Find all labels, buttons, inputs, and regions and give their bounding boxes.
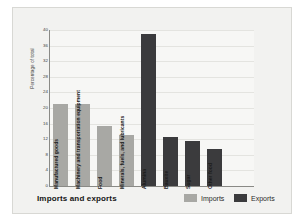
bar-label-machinery-and-transportation-equipment: Machinery and transportation equipment bbox=[76, 90, 81, 189]
y-tick-label: 28 bbox=[30, 75, 48, 79]
legend-item-imports[interactable]: Imports bbox=[184, 194, 224, 202]
y-tick-label: 4 bbox=[30, 168, 48, 172]
chart-footer: Imports and exports Imports Exports bbox=[13, 188, 291, 214]
bar-label-minerals-fuels-and-lubricants: Minerals, fuels, and lubricants bbox=[120, 116, 125, 189]
y-tick-label: 20 bbox=[30, 106, 48, 110]
y-tick-label: 40 bbox=[30, 28, 48, 32]
y-axis-title: Percentage of total bbox=[30, 26, 35, 112]
y-tick-label: 32 bbox=[30, 59, 48, 63]
bar-label-manufactured-goods: Manufactured goods bbox=[54, 139, 59, 189]
y-tick-label: 12 bbox=[30, 137, 48, 141]
bar-alumina[interactable] bbox=[141, 34, 156, 186]
chart-figure: Percentage of total 40 36 32 28 24 20 16… bbox=[12, 7, 292, 214]
y-axis-line bbox=[49, 30, 50, 187]
chart-title: Imports and exports bbox=[37, 194, 117, 203]
y-tick-label: 8 bbox=[30, 153, 48, 157]
y-tick-label: 24 bbox=[30, 90, 48, 94]
legend-label-imports: Imports bbox=[201, 195, 224, 202]
legend-swatch-exports-icon bbox=[234, 194, 247, 202]
gridline bbox=[49, 30, 254, 31]
bar-label-sugar: Sugar bbox=[186, 175, 191, 189]
legend-swatch-imports-icon bbox=[184, 194, 197, 202]
bar-label-alumina: Alumina bbox=[142, 169, 147, 189]
legend-item-exports[interactable]: Exports bbox=[234, 194, 275, 202]
bar-label-other-food: Other food bbox=[208, 163, 213, 189]
legend-label-exports: Exports bbox=[251, 195, 275, 202]
y-tick-label: 16 bbox=[30, 122, 48, 126]
bar-label-bauxite: Bauxite bbox=[164, 171, 169, 189]
y-tick-label: 36 bbox=[30, 44, 48, 48]
